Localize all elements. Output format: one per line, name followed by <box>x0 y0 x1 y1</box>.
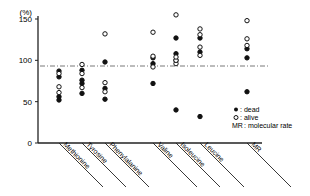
dead-point <box>245 90 249 94</box>
legend: : dead: aliveMR: molecular rate <box>232 106 292 129</box>
alive-point <box>103 90 107 94</box>
category-label-isoleucine: Isoleucine <box>179 141 206 168</box>
scatter-chart: 050100150(%) MethionineTyrosinePhenylala… <box>0 0 310 196</box>
category-leader-line <box>105 143 149 187</box>
alive-point <box>198 45 202 49</box>
legend-alive-label: : alive <box>240 114 258 121</box>
legend-mr-label: : molecular rate <box>244 122 292 129</box>
alive-point <box>103 80 107 84</box>
dead-point <box>198 114 202 118</box>
alive-point <box>57 90 61 94</box>
dead-point <box>103 97 107 101</box>
alive-point <box>151 30 155 34</box>
alive-point <box>80 85 84 89</box>
dead-point <box>80 91 84 95</box>
alive-point <box>198 27 202 31</box>
y-tick-label: 50 <box>23 98 32 107</box>
legend-mr-symbol: MR <box>232 122 243 129</box>
legend-dead-icon <box>234 108 238 112</box>
y-ticks: 050100150(%) <box>19 8 38 148</box>
alive-point <box>57 71 61 75</box>
category-label-leucine: Leucine <box>203 141 225 163</box>
category-label-phenylalanine: Phenylalanine <box>108 141 145 178</box>
dead-point <box>174 36 178 40</box>
category-leader-line <box>200 143 244 187</box>
alive-point <box>80 62 84 66</box>
dead-point <box>80 78 84 82</box>
alive-point <box>80 71 84 75</box>
category-leader-line <box>247 143 291 187</box>
legend-alive-icon <box>234 116 238 120</box>
alive-point <box>245 37 249 41</box>
alive-point <box>174 13 178 17</box>
category-labels: MethionineTyrosinePhenylalanineValineIso… <box>59 141 291 187</box>
alive-point <box>151 54 155 58</box>
alive-point <box>245 43 249 47</box>
alive-point <box>151 65 155 69</box>
alive-point <box>198 53 202 57</box>
y-tick-label: 0 <box>28 139 33 148</box>
alive-point <box>57 85 61 89</box>
dead-point <box>151 81 155 85</box>
dead-point <box>245 56 249 60</box>
y-tick-label: 100 <box>19 56 33 65</box>
legend-dead-label: : dead <box>240 106 260 113</box>
alive-point <box>245 18 249 22</box>
dead-point <box>174 108 178 112</box>
alive-point <box>174 55 178 59</box>
dead-point <box>103 60 107 64</box>
alive-point <box>103 32 107 36</box>
y-unit-label: (%) <box>20 8 33 17</box>
alive-point <box>198 33 202 37</box>
